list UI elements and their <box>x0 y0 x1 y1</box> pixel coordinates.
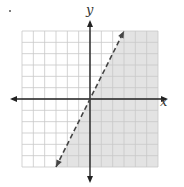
inequality-graph: x y <box>0 0 184 187</box>
y-axis-label: y <box>85 2 94 17</box>
x-axis-label: x <box>160 94 168 109</box>
